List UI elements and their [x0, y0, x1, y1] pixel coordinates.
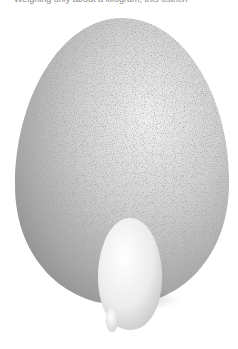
eggs-photo: [0, 0, 238, 349]
hummingbird-egg: [106, 308, 119, 332]
